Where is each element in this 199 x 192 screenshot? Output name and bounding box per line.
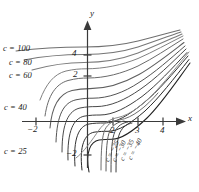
x-axis-label: x: [188, 114, 192, 123]
y-tick-label--2: −2: [66, 149, 77, 158]
x-tick-label-4: 4: [160, 126, 165, 135]
level-curve-figure: c = 100 c = 80 c = 60 c = 40 c = 25 c = …: [0, 0, 199, 192]
curve-label-c-60: c = 60: [9, 71, 32, 80]
y-axis-label: y: [90, 9, 94, 18]
curve-label-c-80: c = 80: [9, 58, 32, 67]
x-tick-label--2: −2: [27, 125, 38, 134]
curve-label-c-100: c = 100: [3, 44, 30, 53]
curve-label-c-40: c = 40: [4, 103, 27, 112]
y-tick-label-4: 4: [72, 49, 77, 58]
curve-label-c-25: c = 25: [4, 147, 27, 156]
plot-canvas: [0, 0, 199, 192]
y-tick-label-2: 2: [73, 70, 78, 79]
curve-c-10: [88, 63, 190, 172]
positive-level-curves: [16, 30, 190, 172]
x-tick-label-3: 3: [135, 126, 140, 135]
curve-c-30: [62, 49, 186, 152]
x-tick-label-2: 2: [110, 126, 115, 135]
